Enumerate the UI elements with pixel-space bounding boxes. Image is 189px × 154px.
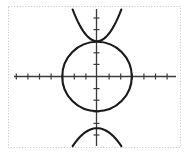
graph-figure: Graph of circle with intersecting parabo…	[0, 0, 189, 154]
graph-canvas	[0, 0, 189, 154]
